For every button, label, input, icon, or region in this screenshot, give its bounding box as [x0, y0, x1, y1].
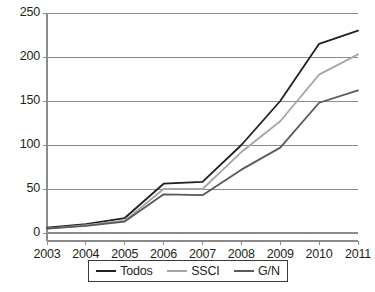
y-tick-label: 200 — [20, 49, 40, 63]
y-tick-label: 0 — [33, 225, 40, 239]
legend-entry: Todos — [96, 264, 152, 278]
y-tick-label: 250 — [20, 5, 40, 19]
gridlines — [47, 13, 358, 233]
series-line-todos — [47, 31, 358, 228]
legend-label: Todos — [120, 264, 152, 278]
data-series — [47, 31, 358, 229]
x-tick-label: 2007 — [184, 247, 222, 261]
x-tick-label: 2004 — [67, 247, 105, 261]
series-line-ssci — [47, 54, 358, 228]
chart-legend: TodosSSCIG/N — [88, 260, 288, 282]
legend-line-swatch-icon — [234, 270, 254, 272]
legend-line-swatch-icon — [96, 270, 116, 272]
x-tick-label: 2009 — [261, 247, 299, 261]
axes — [43, 13, 47, 241]
legend-entry: G/N — [234, 264, 280, 278]
x-axis-ticks — [47, 241, 358, 245]
x-tick-label: 2011 — [339, 247, 375, 261]
x-tick-label: 2006 — [145, 247, 183, 261]
legend-label: G/N — [258, 264, 280, 278]
legend-line-swatch-icon — [167, 270, 187, 272]
line-chart: 050100150200250 200320042005200620072008… — [0, 0, 375, 292]
y-tick-label: 100 — [20, 137, 40, 151]
x-tick-label: 2008 — [222, 247, 260, 261]
plot-area — [0, 0, 375, 250]
legend-label: SSCI — [191, 264, 219, 278]
series-line-g-n — [47, 90, 358, 228]
x-tick-label: 2003 — [28, 247, 66, 261]
y-tick-label: 50 — [26, 181, 40, 195]
x-tick-label: 2005 — [106, 247, 144, 261]
x-tick-label: 2010 — [300, 247, 338, 261]
y-tick-label: 150 — [20, 93, 40, 107]
legend-entry: SSCI — [167, 264, 219, 278]
